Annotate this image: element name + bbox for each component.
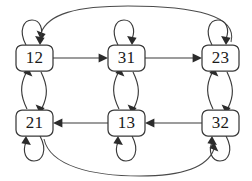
self-loop-23 bbox=[208, 20, 230, 45]
edge-31-to-13 bbox=[128, 72, 139, 114]
node-32[interactable]: 32 bbox=[202, 110, 239, 136]
arrowhead-self-13 bbox=[113, 136, 123, 145]
edge-21-to-12 bbox=[22, 67, 33, 109]
self-loop-21 bbox=[21, 136, 43, 161]
node-21[interactable]: 21 bbox=[16, 110, 53, 136]
self-loop-13 bbox=[113, 136, 135, 161]
arrowhead-self-21 bbox=[21, 136, 31, 145]
arrowhead-right-into-31 bbox=[99, 54, 108, 63]
arrowhead-right-into-23 bbox=[193, 54, 202, 63]
edge-23-to-32 bbox=[222, 72, 233, 114]
node-23[interactable]: 23 bbox=[202, 45, 239, 71]
arrowhead-self-31 bbox=[127, 36, 137, 45]
node-31[interactable]: 31 bbox=[108, 45, 145, 71]
edge-12-to-31 bbox=[53, 54, 108, 63]
vertical-down-path-right bbox=[227, 72, 232, 108]
node-12[interactable]: 12 bbox=[16, 45, 53, 71]
node-label-21: 21 bbox=[26, 113, 44, 132]
edge-13-to-21 bbox=[53, 119, 108, 128]
node-label-12: 12 bbox=[26, 48, 44, 67]
graph-canvas: 12 31 23 21 13 32 bbox=[0, 0, 252, 181]
edge-32-to-13 bbox=[145, 119, 202, 128]
self-loop-31 bbox=[114, 20, 136, 45]
vertical-down-path-middle bbox=[133, 72, 138, 108]
long-arc-path-top bbox=[41, 6, 232, 42]
arrowhead-left-into-13 bbox=[145, 119, 154, 128]
node-label-31: 31 bbox=[118, 48, 136, 67]
arrowhead-self-23 bbox=[221, 36, 231, 45]
arrowhead-self-32 bbox=[207, 136, 217, 145]
edge-13-to-31 bbox=[114, 67, 125, 109]
node-13[interactable]: 13 bbox=[108, 110, 145, 136]
state-diagram: 12 31 23 21 13 32 bbox=[0, 0, 252, 181]
node-label-13: 13 bbox=[118, 113, 136, 132]
edge-12-to-21 bbox=[36, 72, 47, 114]
vertical-up-path-middle bbox=[114, 73, 119, 109]
self-loop-12 bbox=[22, 20, 44, 45]
edge-23-to-12-top-arc bbox=[37, 6, 232, 42]
edge-32-to-23 bbox=[208, 67, 219, 109]
vertical-up-path-left bbox=[22, 73, 27, 109]
edge-31-to-23 bbox=[145, 54, 202, 63]
self-loop-32 bbox=[207, 136, 229, 161]
vertical-up-path-right bbox=[208, 73, 213, 109]
node-label-32: 32 bbox=[212, 113, 230, 132]
node-label-23: 23 bbox=[212, 48, 230, 67]
vertical-down-path-left bbox=[41, 72, 46, 108]
edge-21-to-32-bottom-arc bbox=[44, 139, 218, 176]
arrowhead-self-12 bbox=[35, 36, 45, 45]
arrowhead-left-into-21 bbox=[53, 119, 62, 128]
long-arc-path-bottom bbox=[44, 139, 214, 176]
